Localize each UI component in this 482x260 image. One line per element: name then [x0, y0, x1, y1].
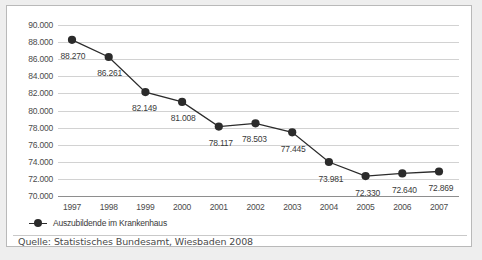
data-point-marker: [141, 88, 149, 96]
legend-item-label: Auszubildende im Krankenhaus: [53, 218, 167, 228]
data-point-marker: [435, 167, 443, 175]
data-point-value-label: 77.445: [281, 144, 306, 154]
data-point-marker: [288, 128, 296, 136]
data-point-marker: [68, 36, 76, 44]
series-line-auszubildende: [7, 6, 473, 211]
x-axis-tick-label: 2007: [430, 202, 448, 212]
x-axis-tick-label: 2005: [357, 202, 375, 212]
data-point-value-label: 78.503: [242, 134, 267, 144]
data-point-value-label: 78.117: [209, 138, 233, 148]
data-point-value-label: 72.640: [392, 185, 417, 195]
x-axis-tick-label: 2006: [393, 202, 411, 212]
x-axis-tick-label: 1998: [100, 202, 118, 212]
data-point-marker: [105, 53, 113, 61]
x-axis-tick-label: 2004: [320, 202, 338, 212]
source-note-text: Quelle: Statistisches Bundesamt, Wiesbad…: [18, 236, 253, 247]
x-axis-tick-label: 1997: [63, 202, 81, 212]
data-point-value-label: 81.008: [171, 113, 196, 123]
data-point-marker: [178, 98, 186, 106]
data-point-value-label: 73.981: [318, 174, 343, 184]
plot-area: 70.00072.00074.00076.00078.00080.00082.0…: [7, 6, 473, 211]
data-point-marker: [251, 119, 259, 127]
x-axis-tick-label: 2001: [210, 202, 228, 212]
data-point-value-label: 86.261: [97, 68, 122, 78]
data-point-marker: [362, 172, 370, 180]
data-point-value-label: 82.149: [132, 103, 157, 113]
data-point-marker: [398, 169, 406, 177]
data-point-marker: [215, 123, 223, 131]
data-point-marker: [325, 158, 333, 166]
x-axis-tick-label: 2003: [283, 202, 301, 212]
source-note: Quelle: Statistisches Bundesamt, Wiesbad…: [7, 236, 473, 247]
data-point-value-label: 72.869: [429, 183, 454, 193]
x-axis-tick-label: 1999: [136, 202, 154, 212]
line-with-circle-marker-icon: [29, 218, 47, 228]
x-axis-tick-label: 2002: [246, 202, 264, 212]
data-point-value-label: 88.270: [61, 51, 86, 61]
chart-legend: Auszubildende im Krankenhaus: [7, 212, 473, 234]
data-point-value-label: 72.330: [355, 188, 380, 198]
x-axis-tick-label: 2000: [173, 202, 191, 212]
series-polyline: [72, 40, 439, 176]
chart-figure: 70.00072.00074.00076.00078.00080.00082.0…: [6, 5, 472, 247]
